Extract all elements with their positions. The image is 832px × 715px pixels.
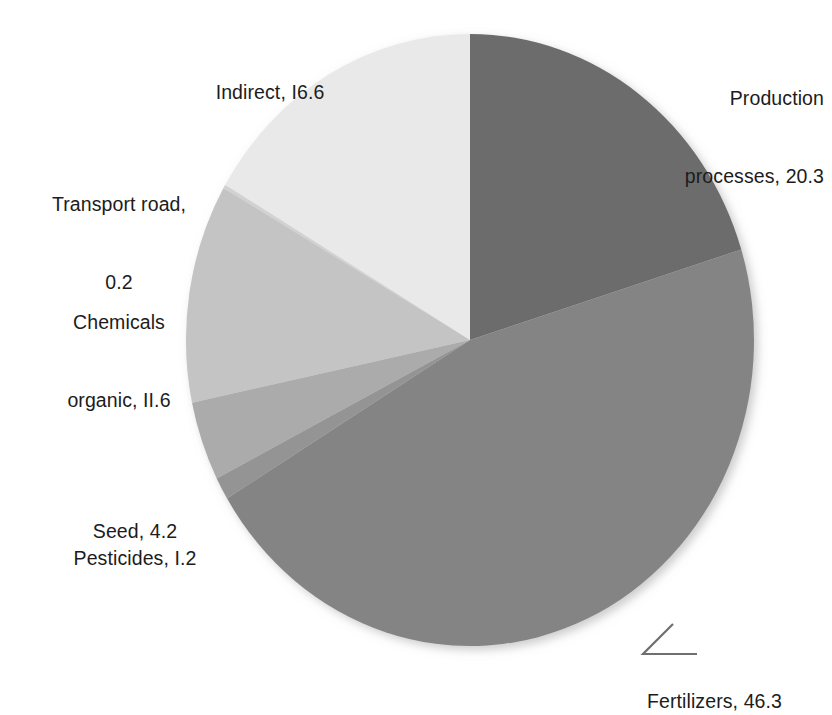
- pie-label-production-line1: Production: [600, 85, 824, 111]
- pie-label-transport-line1: Transport road,: [14, 191, 224, 217]
- pie-label-chemicals-organic: Chemicals organic, II.6: [14, 257, 224, 465]
- pie-label-fertilizers: Fertilizers, 46.3: [647, 636, 832, 715]
- pie-label-indirect: Indirect, I6.6: [170, 27, 370, 157]
- pie-label-indirect-text: Indirect, I6.6: [170, 79, 370, 105]
- pie-label-fertilizers-text: Fertilizers, 46.3: [647, 688, 832, 714]
- pie-label-pesticides-text: Pesticides, I.2: [30, 545, 240, 571]
- pie-label-chemicals-line2: organic, II.6: [14, 387, 224, 413]
- pie-label-production-line2: processes, 20.3: [600, 163, 824, 189]
- pie-label-chemicals-line1: Chemicals: [14, 309, 224, 335]
- pie-label-pesticides: Pesticides, I.2: [30, 493, 240, 623]
- pie-label-production-processes: Production processes, 20.3: [600, 33, 824, 241]
